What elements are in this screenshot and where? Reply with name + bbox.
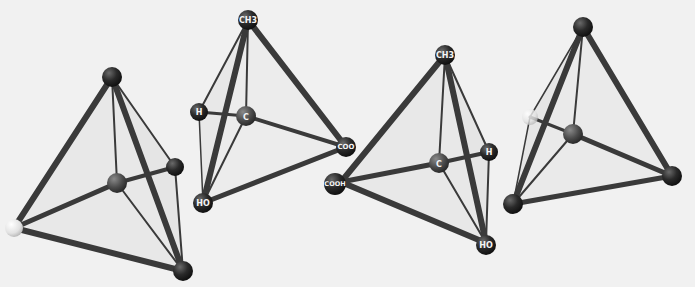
atom-ball (662, 166, 682, 186)
label-h: H (196, 108, 203, 117)
label-cooh: COOH (324, 180, 345, 188)
label-ho: HO (196, 199, 210, 208)
atom-ball (107, 173, 127, 193)
label-c: C (436, 160, 442, 169)
label-h: H (486, 148, 493, 157)
label-ch3: CH3 (239, 16, 257, 25)
atom-ball (102, 67, 122, 87)
atom-ball (166, 158, 184, 176)
atom-ball (173, 261, 193, 281)
label-ho: HO (479, 241, 493, 250)
atom-ball (503, 194, 523, 214)
atom-ball (573, 17, 593, 37)
molecular-models-photo: CH3 H C COO HO CH3 C H COOH (0, 0, 695, 287)
atom-ball (563, 124, 583, 144)
atom-ball-white (522, 109, 538, 125)
label-ch3: CH3 (436, 51, 454, 60)
label-c: C (243, 113, 249, 122)
atom-ball-white (5, 219, 23, 237)
label-coo: COO (337, 143, 354, 151)
